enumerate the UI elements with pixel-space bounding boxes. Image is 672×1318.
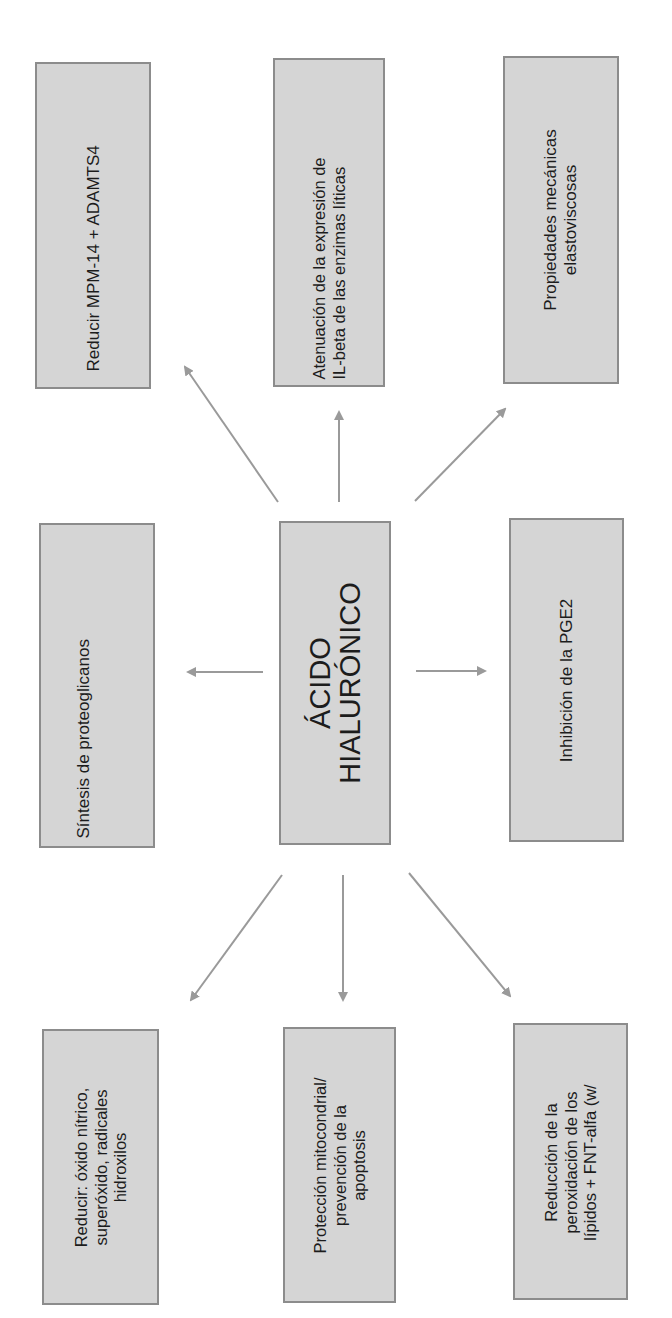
effect-box-viscoelastic-properties: Propiedades mecánicas elastoviscosas: [503, 56, 619, 384]
effect-box-il-beta-attenuation: Atenuación de la expresión de IL-beta de…: [273, 58, 385, 387]
center-box-hyaluronic-acid: ÁCIDO HIALURÓNICO: [279, 521, 391, 845]
effect-box-mitochondrial-protection: Protección mitocondrial/ prevención de l…: [283, 1027, 396, 1303]
effect-text-line: Inhibición de la PGE2: [556, 599, 576, 763]
effect-text-line: Síntesis de proteoglicanos: [73, 639, 93, 838]
effect-box-lipid-peroxidation: Reducción de la peroxidación de los lípi…: [513, 1023, 628, 1300]
effect-text-line: Protección mitocondrial/: [310, 1077, 330, 1253]
effect-text-line: hidroxilos: [110, 1133, 130, 1203]
effect-text-line: Reducir: óxido nítrico,: [71, 1088, 91, 1248]
effect-box-reduce-mmp14-adamts4: Reducir MPM-14 + ADAMTS4: [35, 62, 151, 389]
effect-text-line: apoptosis: [349, 1130, 369, 1201]
effect-box-pge2-inhibition: Inhibición de la PGE2: [509, 518, 624, 842]
effect-text-line: elastoviscosas: [561, 165, 581, 276]
effect-text-line: lípidos + FNT-alfa (w/: [581, 1084, 601, 1240]
effect-text-line: Atenuación de la expresión de: [310, 157, 330, 379]
effect-text-line: Propiedades mecánicas: [541, 129, 561, 310]
arrow-to-top-left: [185, 367, 278, 502]
center-title-line: ÁCIDO: [305, 637, 335, 729]
effect-box-reduce-radicals: Reducir: óxido nítrico, superóxido, radi…: [42, 1029, 159, 1305]
effect-text-line: IL-beta de las enzimas líticas: [330, 166, 350, 379]
effect-text-line: Reducir MPM-14 + ADAMTS4: [83, 145, 103, 371]
effect-text-line: peroxidación de los: [561, 1091, 581, 1233]
center-title-line: HIALURÓNICO: [335, 582, 365, 783]
arrow-to-bottom-left: [191, 875, 282, 1000]
arrow-to-bottom-right: [409, 873, 510, 996]
effect-text-line: superóxido, radicales: [91, 1090, 111, 1246]
effect-text-line: Reducción de la: [541, 1103, 561, 1221]
effect-text-line: prevención de la: [330, 1105, 350, 1226]
effect-box-proteoglycan-synthesis: Síntesis de proteoglicanos: [39, 523, 155, 848]
arrow-to-top-right: [415, 409, 505, 501]
